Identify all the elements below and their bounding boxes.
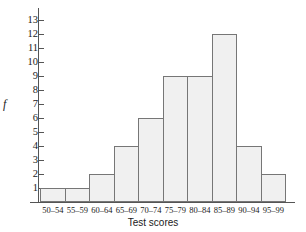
histogram-bar <box>40 188 66 202</box>
x-axis-title: Test scores <box>0 217 306 228</box>
histogram-bar <box>89 174 115 202</box>
histogram-bar <box>114 146 140 202</box>
histogram-bar <box>236 146 262 202</box>
x-axis-tick-label: 95–99 <box>258 206 290 215</box>
histogram-bar <box>65 188 91 202</box>
histogram-bar <box>261 174 287 202</box>
histogram-bar <box>187 76 213 202</box>
histogram-bar <box>138 118 164 202</box>
histogram-bar <box>212 34 238 202</box>
bars-group <box>0 0 306 232</box>
histogram-bar <box>163 76 189 202</box>
histogram-chart: f 13121110987654321 50–5455–5960–6465–69… <box>0 0 306 232</box>
